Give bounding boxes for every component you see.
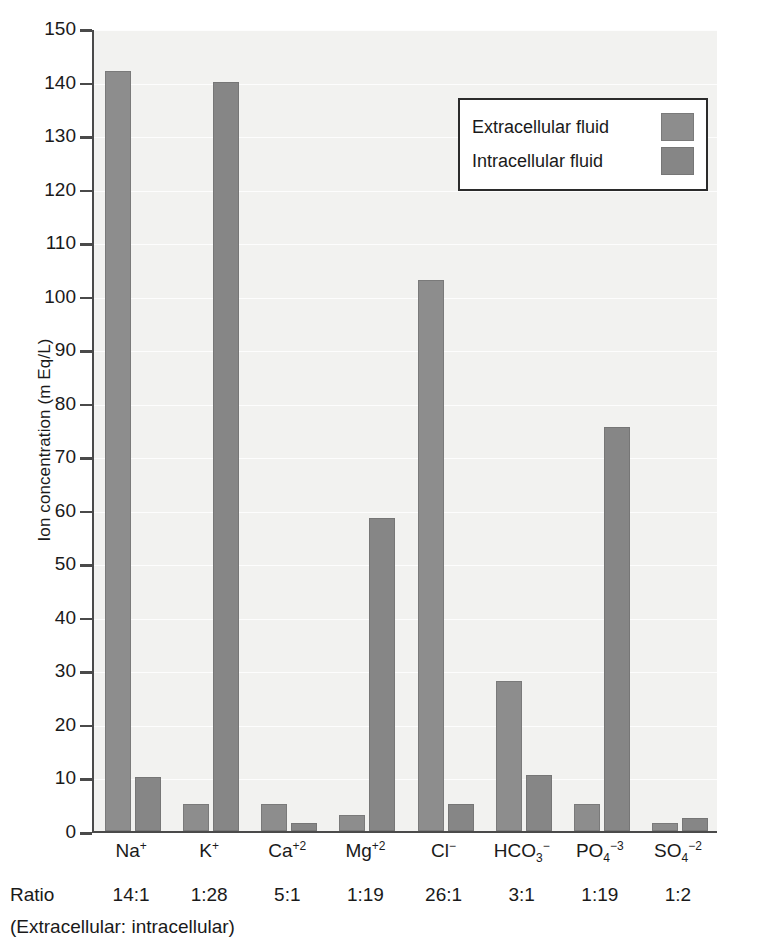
y-axis-tick-label: 80	[22, 394, 76, 413]
y-axis-tick-label: 20	[22, 715, 76, 734]
y-axis-tick-label: 140	[22, 73, 76, 92]
bar	[339, 815, 365, 831]
bar	[652, 823, 678, 831]
bar	[105, 71, 131, 831]
y-axis-tick	[80, 564, 92, 567]
legend-label-extracellular: Extracellular fluid	[472, 117, 609, 138]
bar	[213, 82, 239, 831]
y-axis-tick-label: 60	[22, 501, 76, 520]
ratio-value: 1:2	[618, 884, 738, 906]
y-axis-tick-label: 120	[22, 180, 76, 199]
bar	[448, 804, 474, 831]
gridline	[94, 351, 717, 352]
ratio-values-row: 14:11:285:11:1926:13:11:191:2	[92, 884, 717, 912]
legend-swatch-intracellular	[661, 147, 694, 175]
ratio-note: (Extracellular: intracellular)	[10, 916, 235, 938]
bar	[183, 804, 209, 831]
x-axis-labels: Na+K+Ca+2Mg+2Cl−HCO3−PO4−3SO4−2	[92, 840, 717, 874]
legend-item-extracellular: Extracellular fluid	[472, 110, 694, 144]
legend-swatch-extracellular	[661, 113, 694, 141]
y-axis-tick-label: 90	[22, 340, 76, 359]
bar	[369, 518, 395, 831]
bar	[496, 681, 522, 831]
y-axis-tick	[80, 511, 92, 514]
y-axis-tick	[80, 832, 92, 835]
gridline	[94, 405, 717, 406]
bar	[291, 823, 317, 831]
legend-item-intracellular: Intracellular fluid	[472, 144, 694, 178]
y-axis-tick	[80, 350, 92, 353]
y-axis-tick	[80, 297, 92, 300]
y-axis-tick-label: 10	[22, 768, 76, 787]
y-axis-tick-label: 0	[22, 822, 76, 841]
y-axis-tick	[80, 618, 92, 621]
y-axis-tick	[80, 136, 92, 139]
y-axis-tick	[80, 457, 92, 460]
bar	[418, 280, 444, 831]
y-axis-tick	[80, 190, 92, 193]
gridline	[94, 84, 717, 85]
legend-label-intracellular: Intracellular fluid	[472, 151, 603, 172]
y-axis-tick	[80, 778, 92, 781]
bar	[135, 777, 161, 831]
ratio-label: Ratio	[10, 884, 54, 906]
y-axis-tick	[80, 725, 92, 728]
y-axis-tick-label: 50	[22, 554, 76, 573]
y-axis-tick	[80, 404, 92, 407]
y-axis-tick	[80, 29, 92, 32]
x-axis-label: SO4−2	[618, 840, 738, 862]
y-axis-tick-label: 150	[22, 19, 76, 38]
chart-legend: Extracellular fluid Intracellular fluid	[458, 98, 708, 191]
y-axis-tick	[80, 83, 92, 86]
bar	[261, 804, 287, 831]
gridline	[94, 244, 717, 245]
bar	[526, 775, 552, 831]
y-axis-tick-label: 100	[22, 287, 76, 306]
y-axis-tick-label: 40	[22, 608, 76, 627]
y-axis-tick-label: 130	[22, 126, 76, 145]
ion-concentration-chart: Ion concentration (m Eq/L) 0102030405060…	[0, 0, 760, 942]
y-axis-tick-label: 70	[22, 447, 76, 466]
y-axis-tick	[80, 243, 92, 246]
gridline	[94, 30, 717, 31]
y-axis-tick	[80, 671, 92, 674]
y-axis-tick-label: 110	[22, 233, 76, 252]
bar	[682, 818, 708, 831]
gridline	[94, 298, 717, 299]
bar	[604, 427, 630, 831]
y-axis-tick-label: 30	[22, 661, 76, 680]
bar	[574, 804, 600, 831]
